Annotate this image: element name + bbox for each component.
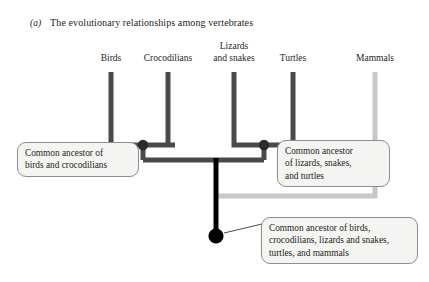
taxon-label-turtles: Turtles bbox=[265, 53, 321, 65]
leader-line-root bbox=[224, 224, 262, 233]
node-dot-birds-crocodilians bbox=[138, 140, 148, 150]
panel-letter: (a) bbox=[30, 18, 41, 28]
taxon-label-crocodilians: Crocodilians bbox=[126, 53, 210, 65]
node-dot-root bbox=[208, 228, 223, 243]
taxon-label-mammals: Mammals bbox=[344, 53, 406, 65]
node-dot-lizards-turtles bbox=[259, 140, 269, 150]
callout-birds-crocodilians-ancestor: Common ancestor of birds and crocodilian… bbox=[17, 142, 139, 177]
page-title: The evolutionary relationships among ver… bbox=[50, 17, 253, 28]
figure-caption: (a) The evolutionary relationships among… bbox=[30, 17, 253, 28]
callout-lizards-turtles-ancestor: Common ancestor of lizards, snakes, and … bbox=[277, 140, 390, 187]
lepidosaur-turtle-clade-branches bbox=[234, 72, 293, 145]
figure-panel: (a) The evolutionary relationships among… bbox=[0, 0, 429, 282]
callout-root-ancestor: Common ancestor of birds, crocodilians, … bbox=[261, 217, 418, 264]
taxon-label-lizards-and-snakes: Lizards and snakes bbox=[199, 41, 269, 64]
archosaur-clade-branches bbox=[111, 72, 175, 145]
